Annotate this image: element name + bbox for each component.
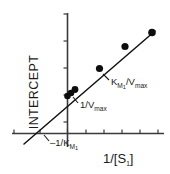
- data-point: [96, 65, 103, 72]
- y-intercept-annotation-sub: max: [94, 105, 107, 112]
- x-axis-label-base: 1/[S: [103, 151, 126, 166]
- x-intercept-annotation-sub2: 1: [75, 145, 78, 151]
- x-axis-label-close: ]: [130, 151, 134, 166]
- x-intercept-annotation-base: –1/K: [50, 137, 70, 148]
- chart-figure: INTERCEPT 1/[S1] KM1/Vmax 1/Vmax –1/KM1: [0, 0, 170, 174]
- x-axis-label: 1/[S1]: [103, 151, 133, 167]
- slope-annotation-tail-sub: max: [135, 82, 148, 89]
- y-axis-label: INTERCEPT: [27, 55, 41, 129]
- data-point: [121, 43, 128, 50]
- data-point: [72, 86, 79, 93]
- y-intercept-annotation-base: 1/V: [80, 99, 95, 110]
- chart-canvas: INTERCEPT 1/[S1] KM1/Vmax 1/Vmax –1/KM1: [0, 0, 170, 174]
- data-point: [148, 29, 156, 37]
